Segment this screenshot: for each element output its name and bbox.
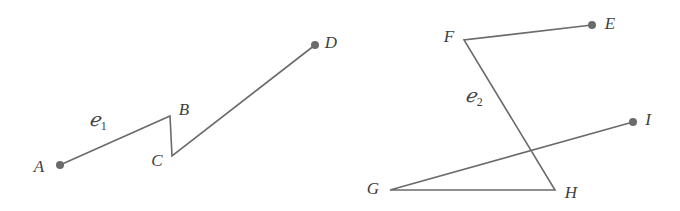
vertex-label-d: D bbox=[325, 34, 337, 51]
curve-c1-label: ℯ1 bbox=[89, 110, 107, 132]
script-c-glyph: ℯ bbox=[465, 84, 476, 106]
vertex-label-c: C bbox=[151, 152, 162, 169]
endpoint-dot-e bbox=[588, 21, 596, 29]
vertex-label-i: I bbox=[645, 111, 651, 128]
polyline-c2 bbox=[390, 25, 633, 190]
vertex-label-e: E bbox=[605, 15, 615, 32]
vertex-label-f: F bbox=[444, 28, 454, 45]
endpoint-dot-d bbox=[311, 41, 319, 49]
geometry-figure: ABCDℯ1EFGHIℯ2 bbox=[0, 0, 680, 211]
vertex-label-a: A bbox=[34, 158, 44, 175]
vertex-label-g: G bbox=[367, 180, 379, 197]
vertex-label-h: H bbox=[565, 184, 577, 201]
curve-c1-subscript: 1 bbox=[101, 119, 107, 133]
endpoint-dot-i bbox=[629, 118, 637, 126]
curve-c2-group bbox=[390, 21, 637, 190]
curve-c2-subscript: 2 bbox=[477, 95, 483, 109]
curve-c2-label: ℯ2 bbox=[465, 86, 483, 108]
endpoint-dot-a bbox=[56, 161, 64, 169]
script-c-glyph: ℯ bbox=[89, 108, 100, 130]
vertex-label-b: B bbox=[179, 101, 189, 118]
diagram-canvas bbox=[0, 0, 680, 211]
